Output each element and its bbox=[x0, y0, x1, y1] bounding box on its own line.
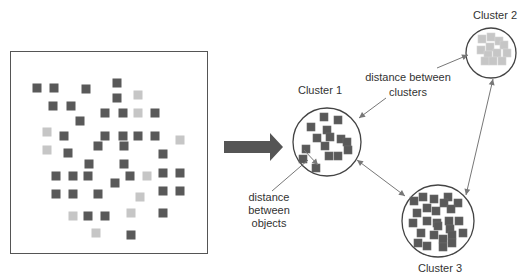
cluster-2-object bbox=[481, 57, 489, 65]
data-object-square bbox=[85, 160, 94, 169]
distance-between-clusters-line2: clusters bbox=[365, 85, 451, 100]
data-object-square bbox=[119, 109, 128, 118]
data-object-square bbox=[176, 169, 185, 178]
cluster-2-object bbox=[493, 49, 501, 57]
cluster-2-object bbox=[478, 35, 486, 43]
data-object-square bbox=[159, 187, 168, 196]
cluster-3-object bbox=[413, 209, 421, 217]
data-object-square bbox=[60, 132, 69, 141]
cluster-2-object bbox=[498, 57, 506, 65]
cluster-1-object bbox=[326, 133, 334, 141]
cluster1-pointer-arrowhead-icon bbox=[359, 112, 366, 118]
data-object-square bbox=[101, 212, 110, 221]
cluster-3-object bbox=[423, 204, 431, 212]
cluster-1-object bbox=[307, 123, 315, 131]
cluster1-cluster3-distance-arrowhead-icon bbox=[398, 190, 405, 196]
data-object-square bbox=[159, 209, 168, 218]
data-object-square bbox=[113, 94, 122, 103]
data-object-square bbox=[134, 109, 143, 118]
cluster-3-object bbox=[419, 193, 427, 201]
diagram-graphics bbox=[0, 0, 530, 280]
cluster-3-object bbox=[459, 229, 467, 237]
data-object-square bbox=[82, 85, 91, 94]
cluster-3-object bbox=[423, 217, 431, 225]
cluster-3-object bbox=[445, 217, 453, 225]
data-object-square bbox=[127, 231, 136, 240]
cluster-3-object bbox=[432, 207, 440, 215]
data-object-square bbox=[176, 187, 185, 196]
data-object-square bbox=[52, 190, 61, 199]
data-object-square bbox=[120, 142, 129, 151]
cluster-3-object bbox=[423, 242, 431, 250]
data-object-square bbox=[76, 117, 85, 126]
data-object-square bbox=[92, 229, 101, 238]
cluster-3-object bbox=[439, 243, 447, 251]
cluster-1-object bbox=[343, 138, 351, 146]
data-object-square bbox=[101, 109, 110, 118]
data-object-square bbox=[113, 79, 122, 88]
cluster-3-object bbox=[439, 235, 447, 243]
cluster-1-object bbox=[334, 116, 342, 124]
data-object-square bbox=[49, 102, 58, 111]
distance-between-clusters-label: distance between clusters bbox=[365, 70, 451, 100]
transform-arrow-icon bbox=[224, 133, 283, 161]
data-object-square bbox=[127, 209, 136, 218]
cluster-3-object bbox=[410, 197, 418, 205]
cluster1-cluster3-distance-line bbox=[357, 160, 405, 196]
cluster2-cluster3-distance-arrowhead-icon bbox=[464, 188, 470, 195]
cluster2-cluster3-distance-arrowhead-icon bbox=[489, 79, 495, 86]
data-object-square bbox=[159, 169, 168, 178]
data-object-square bbox=[176, 136, 185, 145]
cluster-3-object bbox=[448, 239, 456, 247]
distance-between-objects-line3: objects bbox=[248, 217, 290, 230]
data-object-square bbox=[69, 212, 78, 221]
data-object-square bbox=[101, 132, 110, 141]
data-object-square bbox=[52, 172, 61, 181]
data-object-square bbox=[67, 102, 76, 111]
data-object-square bbox=[151, 109, 160, 118]
data-object-square bbox=[151, 132, 160, 141]
cluster-3-object bbox=[409, 219, 417, 227]
clustering-diagram: Cluster 1 Cluster 2 Cluster 3 distance b… bbox=[0, 0, 530, 280]
cluster-1-object bbox=[325, 152, 333, 160]
distance-between-objects-line2: between bbox=[248, 204, 290, 217]
data-object-square bbox=[69, 172, 78, 181]
distance-between-objects-label: distance between objects bbox=[248, 191, 290, 230]
cluster-2-label: Cluster 2 bbox=[473, 9, 517, 22]
cluster1-cluster3-distance-arrowhead-icon bbox=[357, 160, 364, 166]
data-object-square bbox=[159, 150, 168, 159]
data-object-square bbox=[50, 84, 59, 93]
data-object-square bbox=[119, 132, 128, 141]
cluster-2-object bbox=[489, 57, 497, 65]
cluster-3-object bbox=[430, 231, 438, 239]
data-object-square bbox=[43, 146, 52, 155]
data-object-square bbox=[94, 190, 103, 199]
data-object-square bbox=[69, 190, 78, 199]
data-object-square bbox=[143, 172, 152, 181]
data-object-square bbox=[64, 149, 73, 158]
cluster-3-object bbox=[455, 217, 463, 225]
cluster-2-object bbox=[487, 33, 495, 41]
data-object-square bbox=[111, 179, 120, 188]
distance-between-objects-line1: distance bbox=[248, 191, 290, 204]
data-object-square bbox=[84, 172, 93, 181]
cluster-3-object bbox=[448, 231, 456, 239]
data-object-square bbox=[126, 172, 135, 181]
data-object-square bbox=[134, 91, 143, 100]
cluster-1-object bbox=[344, 146, 352, 154]
cluster2-cluster3-distance-line bbox=[466, 79, 493, 195]
data-object-square bbox=[94, 142, 103, 151]
data-object-square bbox=[33, 84, 42, 93]
cluster-3-object bbox=[447, 205, 455, 213]
cluster-3-object bbox=[414, 239, 422, 247]
cluster-1-object bbox=[312, 164, 320, 172]
data-object-square bbox=[134, 132, 143, 141]
cluster-3-label: Cluster 3 bbox=[418, 262, 462, 275]
cluster-1-object bbox=[334, 152, 342, 160]
data-object-square bbox=[136, 193, 145, 202]
cluster-1-label: Cluster 1 bbox=[298, 84, 342, 97]
data-object-square bbox=[84, 212, 93, 221]
cluster-1-object bbox=[320, 113, 328, 121]
cluster-3-object bbox=[430, 195, 438, 203]
cluster-1-object bbox=[321, 142, 329, 150]
